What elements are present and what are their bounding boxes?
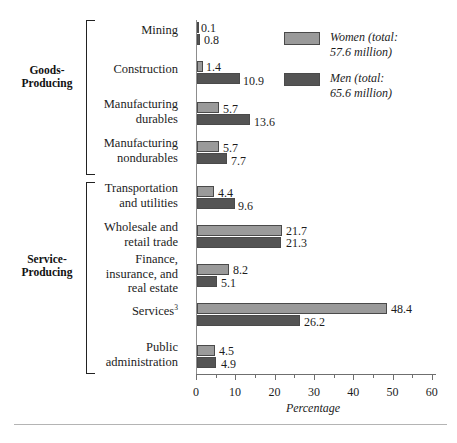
table-row: Manufacturing durables 5.7 13.6 [0, 98, 457, 136]
value-women-public-administration: 4.5 [219, 345, 234, 357]
bar-women-manufacturing-nondurables [197, 141, 219, 152]
category-line: Transportation [105, 181, 178, 195]
bar-women-mining [197, 22, 199, 33]
category-label-public-administration: Public administration [38, 340, 178, 369]
value-men-wholesale-retail-trade: 21.3 [286, 237, 307, 249]
category-line: Construction [113, 62, 178, 76]
value-men-transportation-utilities: 9.6 [238, 200, 253, 212]
x-tick-label-10: 10 [220, 386, 250, 398]
table-row: Services3 48.4 26.2 [0, 299, 457, 337]
category-line: Public [146, 340, 178, 354]
x-tick-15 [255, 374, 256, 378]
category-label-manufacturing-nondurables: Manufacturing nondurables [38, 136, 178, 165]
category-label-manufacturing-durables: Manufacturing durables [38, 97, 178, 126]
bar-women-finance-insurance-real-estate [197, 264, 229, 275]
x-tick-label-60: 60 [417, 386, 447, 398]
x-tick-60 [432, 374, 433, 380]
bar-women-services [197, 303, 387, 314]
x-tick-0 [196, 374, 197, 380]
bar-women-wholesale-retail-trade [197, 225, 282, 236]
bar-men-manufacturing-nondurables [197, 153, 227, 164]
value-women-finance-insurance-real-estate: 8.2 [233, 264, 248, 276]
value-men-public-administration: 4.9 [221, 358, 236, 370]
x-tick-50 [393, 374, 394, 380]
x-tick-45 [373, 374, 374, 378]
category-line: Manufacturing [104, 136, 178, 150]
bar-men-construction [197, 73, 240, 84]
value-men-manufacturing-nondurables: 7.7 [231, 155, 246, 167]
value-men-mining: 0.8 [204, 34, 219, 46]
category-line: and utilities [119, 196, 178, 210]
category-line: durables [136, 112, 178, 126]
bar-women-manufacturing-durables [197, 102, 219, 113]
category-label-wholesale-retail-trade: Wholesale and retail trade [38, 220, 178, 249]
bar-men-manufacturing-durables [197, 114, 250, 125]
x-tick-20 [275, 374, 276, 380]
category-line: Mining [141, 23, 178, 37]
x-tick-label-20: 20 [260, 386, 290, 398]
x-tick-40 [353, 374, 354, 380]
footer-divider [14, 424, 447, 425]
category-line: nondurables [117, 151, 178, 165]
legend-label-women-line1: Women (total: [330, 30, 398, 44]
value-men-construction: 10.9 [243, 75, 264, 87]
legend-label-men-line2: 65.6 million) [330, 86, 392, 100]
category-line: Manufacturing [104, 97, 178, 111]
horizontal-bar-chart: Goods- Producing Service- Producing Mini… [0, 0, 457, 443]
x-tick-label-30: 30 [299, 386, 329, 398]
bar-men-finance-insurance-real-estate [197, 276, 217, 287]
value-men-services: 26.2 [304, 316, 325, 328]
bar-women-construction [197, 61, 203, 72]
bar-men-wholesale-retail-trade [197, 237, 281, 248]
value-men-manufacturing-durables: 13.6 [254, 116, 275, 128]
services-footnote-marker: 3 [174, 303, 178, 312]
category-line: Finance, [135, 252, 178, 266]
category-label-mining: Mining [38, 23, 178, 38]
value-women-construction: 1.4 [206, 61, 221, 73]
x-tick-25 [294, 374, 295, 378]
category-line: administration [106, 355, 178, 369]
bar-men-transportation-utilities [197, 198, 235, 209]
category-line: retail trade [124, 235, 178, 249]
x-tick-10 [235, 374, 236, 380]
category-label-services: Services3 [38, 304, 178, 319]
x-tick-55 [412, 374, 413, 378]
bar-men-services [197, 315, 300, 326]
bar-men-public-administration [197, 357, 216, 368]
category-label-construction: Construction [38, 62, 178, 77]
bar-men-mining [197, 34, 200, 45]
bar-women-public-administration [197, 345, 215, 356]
legend-label-men: Men (total: 65.6 million) [330, 71, 450, 100]
x-tick-label-50: 50 [378, 386, 408, 398]
legend-label-men-line1: Men (total: [330, 71, 384, 85]
legend-label-women: Women (total: 57.6 million) [330, 30, 450, 59]
x-tick-5 [216, 374, 217, 378]
category-line: real estate [128, 281, 178, 295]
x-tick-30 [314, 374, 315, 380]
x-tick-label-0: 0 [181, 386, 211, 398]
table-row: Transportation and utilities 4.4 9.6 [0, 182, 457, 220]
category-line: Services [132, 304, 174, 318]
value-men-finance-insurance-real-estate: 5.1 [221, 277, 236, 289]
value-women-services: 48.4 [391, 303, 412, 315]
category-line: insurance, and [106, 267, 178, 281]
legend-swatch-women [284, 32, 320, 45]
table-row: Public administration 4.5 4.9 [0, 341, 457, 379]
category-line: Wholesale and [104, 220, 178, 234]
x-tick-35 [334, 374, 335, 378]
bar-women-transportation-utilities [197, 186, 214, 197]
table-row: Finance, insurance, and real estate 8.2 … [0, 260, 457, 298]
x-axis-title: Percentage [253, 401, 373, 416]
legend-swatch-men [284, 73, 320, 86]
category-label-finance-insurance-real-estate: Finance, insurance, and real estate [38, 252, 178, 296]
table-row: Manufacturing nondurables 5.7 7.7 [0, 137, 457, 175]
category-label-transportation-utilities: Transportation and utilities [38, 181, 178, 210]
x-tick-label-40: 40 [338, 386, 368, 398]
legend-label-women-line2: 57.6 million) [330, 45, 392, 59]
